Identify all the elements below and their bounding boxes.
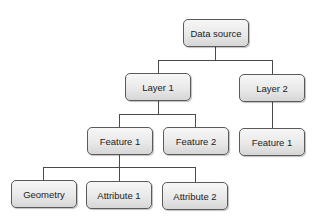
connector-feature1-down bbox=[119, 155, 120, 181]
connector-to-layer1-feature2 bbox=[195, 114, 196, 127]
connector-layer1-down bbox=[158, 100, 159, 114]
node-layer-2: Layer 2 bbox=[239, 74, 305, 102]
connector-root-bar bbox=[158, 60, 273, 61]
node-layer2-feature-1: Feature 1 bbox=[239, 128, 305, 156]
node-label: Attribute 1 bbox=[97, 190, 140, 201]
node-label: Feature 2 bbox=[176, 136, 217, 147]
node-layer1-feature-2: Feature 2 bbox=[163, 127, 229, 155]
node-attribute-2: Attribute 2 bbox=[162, 182, 228, 210]
node-label: Geometry bbox=[23, 189, 65, 200]
node-label: Attribute 2 bbox=[173, 191, 216, 202]
node-layer1-feature-1: Feature 1 bbox=[87, 127, 153, 155]
connector-to-geometry bbox=[43, 167, 44, 180]
node-label: Data source bbox=[190, 28, 241, 39]
node-layer-1: Layer 1 bbox=[125, 73, 191, 101]
connector-feature1-bar bbox=[43, 167, 196, 168]
node-label: Layer 1 bbox=[142, 82, 174, 93]
node-geometry: Geometry bbox=[11, 180, 77, 208]
connector-to-attribute2 bbox=[195, 167, 196, 182]
connector-to-layer2 bbox=[272, 60, 273, 74]
node-label: Feature 1 bbox=[252, 137, 293, 148]
connector-layer2-to-feature1 bbox=[272, 101, 273, 128]
node-attribute-1: Attribute 1 bbox=[86, 181, 152, 209]
connector-layer1-bar bbox=[119, 114, 196, 115]
node-data-source: Data source bbox=[183, 19, 249, 47]
connector-to-layer1-feature1 bbox=[119, 114, 120, 127]
node-label: Layer 2 bbox=[256, 83, 288, 94]
connector-root-down bbox=[215, 46, 216, 60]
connector-to-layer1 bbox=[158, 60, 159, 73]
node-label: Feature 1 bbox=[100, 136, 141, 147]
